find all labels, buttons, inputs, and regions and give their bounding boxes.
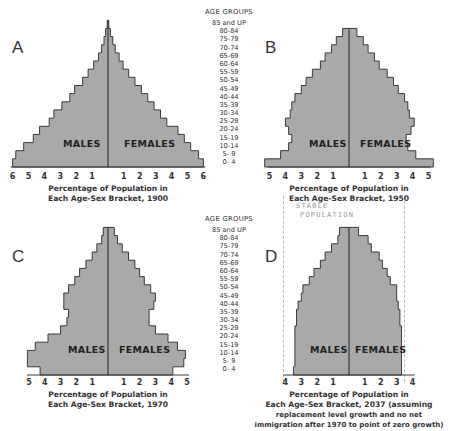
x-tick-label: 1 <box>328 172 338 181</box>
x-tick-label: 5 <box>183 172 193 181</box>
caption-line: replacement level growth and no net <box>249 410 449 420</box>
x-tick-label: 3 <box>56 378 66 387</box>
panel-caption-d: Percentage of Population inEach Age-Sex … <box>249 390 449 430</box>
panel-caption-c: Percentage of Population inEach Age-Sex … <box>33 390 183 410</box>
caption-line: Percentage of Population in <box>249 390 449 400</box>
x-tick-label: 4 <box>280 172 290 181</box>
females-label: FEMALES <box>355 344 406 355</box>
x-tick-label: 2 <box>376 378 386 387</box>
caption-line: Percentage of Population in <box>33 390 183 400</box>
males-label: MALES <box>63 138 101 149</box>
x-tick-label: 5 <box>24 378 34 387</box>
caption-line: Each Age-Sex Bracket, 1970 <box>33 400 183 410</box>
x-tick-label: 3 <box>151 172 161 181</box>
x-tick-label: 2 <box>376 172 386 181</box>
x-tick-label: 3 <box>296 378 306 387</box>
x-tick-label: 2 <box>71 172 81 181</box>
caption-line: Each Age-Sex Bracket, 1900 <box>33 194 183 204</box>
caption-line: Percentage of Population in <box>33 184 183 194</box>
x-tick-label: 1 <box>87 172 97 181</box>
x-tick-label: 5 <box>424 172 434 181</box>
x-tick-label: 3 <box>392 172 402 181</box>
males-label: MALES <box>309 138 347 149</box>
x-tick-label: 4 <box>280 378 290 387</box>
x-tick-label: 5 <box>265 172 275 181</box>
x-tick-label: 2 <box>71 378 81 387</box>
panel-caption-b: Percentage of Population inEach Age-Sex … <box>274 184 424 204</box>
caption-line: Each Age-Sex Bracket, 1950 <box>274 194 424 204</box>
males-label: MALES <box>68 344 106 355</box>
x-tick-label: 1 <box>119 378 129 387</box>
x-tick-label: 2 <box>135 172 145 181</box>
caption-line: immigration after 1970 to point of zero … <box>249 420 449 430</box>
males-label: MALES <box>310 344 348 355</box>
x-tick-label: 4 <box>166 378 176 387</box>
x-tick-label: 3 <box>55 172 65 181</box>
x-tick-label: 2 <box>312 378 322 387</box>
x-tick-label: 3 <box>296 172 306 181</box>
x-tick-label: 6 <box>8 172 18 181</box>
panel-caption-a: Percentage of Population inEach Age-Sex … <box>33 184 183 204</box>
population-pyramids-canvas <box>0 0 452 431</box>
x-tick-label: 1 <box>87 378 97 387</box>
caption-line: Percentage of Population in <box>274 184 424 194</box>
x-tick-label: 2 <box>312 172 322 181</box>
x-tick-label: 4 <box>167 172 177 181</box>
x-tick-label: 4 <box>40 378 50 387</box>
x-tick-label: 4 <box>408 172 418 181</box>
caption-line: Each Age-Sex Bracket, 2037 (assuming <box>249 400 449 410</box>
x-tick-label: 5 <box>24 172 34 181</box>
x-tick-label: 4 <box>39 172 49 181</box>
x-tick-label: 1 <box>360 378 370 387</box>
x-tick-label: 6 <box>198 172 208 181</box>
x-tick-label: 1 <box>119 172 129 181</box>
x-tick-label: 4 <box>408 378 418 387</box>
x-tick-label: 2 <box>135 378 145 387</box>
x-tick-label: 1 <box>360 172 370 181</box>
x-tick-label: 3 <box>392 378 402 387</box>
females-label: FEMALES <box>124 138 175 149</box>
x-tick-label: 1 <box>328 378 338 387</box>
x-tick-label: 5 <box>182 378 192 387</box>
x-tick-label: 3 <box>150 378 160 387</box>
females-label: FEMALES <box>119 344 170 355</box>
females-label: FEMALES <box>360 138 411 149</box>
